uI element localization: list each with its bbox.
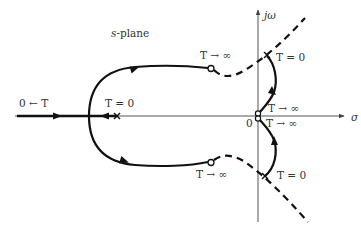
real-axis-label: σ — [351, 111, 359, 123]
arrow-left-icon — [100, 113, 109, 120]
label-origin-upper-end: T → ∞ — [268, 102, 299, 114]
origin-label: 0 — [246, 117, 253, 129]
plane-label: s-plane — [111, 27, 149, 39]
label-upper-right-start: T = 0 — [276, 51, 305, 63]
root-locus-diagram: s-plane jω σ 0 0 ← T T = 0 T → ∞ T → ∞ T… — [0, 0, 361, 234]
zero-marker-icon — [208, 160, 214, 166]
pole-marker-icon — [262, 173, 268, 179]
asymptote-dashed — [214, 156, 308, 222]
label-origin-lower-end: T → ∞ — [266, 117, 297, 129]
label-lower-end: T → ∞ — [196, 168, 227, 180]
label-lower-right-start: T = 0 — [277, 169, 306, 181]
origin-zeros — [255, 111, 260, 121]
asymptote-dashed — [214, 18, 305, 76]
label-upper-end: T → ∞ — [200, 49, 231, 61]
label-real-start: T = 0 — [105, 97, 134, 109]
zero-marker-icon — [255, 116, 260, 121]
zero-marker-icon — [208, 66, 214, 72]
arrow-right-icon — [53, 113, 62, 120]
real-axis-locus — [17, 113, 120, 120]
label-left-real: 0 ← T — [19, 97, 48, 109]
imaginary-axis-label: jω — [262, 9, 276, 21]
